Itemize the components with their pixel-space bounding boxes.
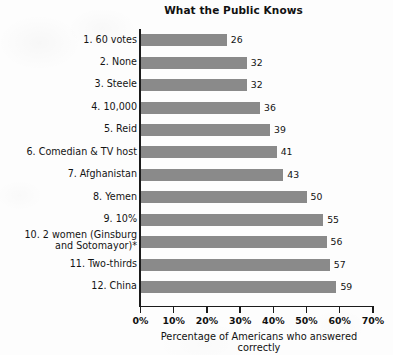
bar-value-label: 43 [287, 169, 299, 181]
bar-category-label: 11. Two-thirds [0, 258, 137, 269]
bar [141, 191, 307, 203]
bar-category-label: 10. 2 women (Ginsburg and Sotomayor)* [0, 230, 137, 251]
bar-value-label: 32 [251, 57, 263, 69]
bar [141, 146, 277, 158]
x-axis-title: Percentage of Americans who answered cor… [139, 331, 379, 353]
bar-value-label: 26 [231, 34, 243, 46]
bar-category-label: 6. Comedian & TV host [0, 146, 137, 157]
bar-row: 4. 10,00036 [0, 96, 393, 118]
bar-category-label: 12. China [0, 280, 137, 291]
bar [141, 102, 261, 114]
bar-category-label: 3. Steele [0, 78, 137, 89]
x-axis-tick [140, 306, 141, 313]
bar [141, 281, 337, 293]
bar-value-label: 39 [274, 124, 286, 136]
bar-value-label: 57 [334, 259, 346, 271]
bar [141, 214, 324, 226]
bar-value-label: 41 [281, 146, 293, 158]
x-axis-tick [339, 306, 340, 313]
bar-category-label: 7. Afghanistan [0, 168, 137, 179]
bar-category-label: 4. 10,000 [0, 101, 137, 112]
bar-row: 8. Yemen50 [0, 186, 393, 208]
bar-category-label: 2. None [0, 56, 137, 67]
bar [141, 34, 227, 46]
bar-category-label: 1. 60 votes [0, 34, 137, 45]
bar-category-label: 9. 10% [0, 213, 137, 224]
bar [141, 79, 247, 91]
x-axis-tick [372, 306, 373, 313]
bar-row: 12. China59 [0, 276, 393, 298]
bar-row: 3. Steele32 [0, 74, 393, 96]
bar [141, 169, 284, 181]
bar-value-label: 50 [311, 191, 323, 203]
bar-row: 9. 10%55 [0, 209, 393, 231]
bar-category-label: 5. Reid [0, 123, 137, 134]
bar-row: 6. Comedian & TV host41 [0, 141, 393, 163]
bar-row: 10. 2 women (Ginsburg and Sotomayor)*56 [0, 231, 393, 253]
bar-value-label: 55 [327, 214, 339, 226]
bar-row: 11. Two-thirds57 [0, 253, 393, 275]
x-axis-tick [173, 306, 174, 313]
x-axis-tick [206, 306, 207, 313]
bar-rows-container: 1. 60 votes262. None323. Steele324. 10,0… [0, 29, 393, 298]
bar [141, 259, 330, 271]
x-axis-tick [306, 306, 307, 313]
bar-value-label: 32 [251, 79, 263, 91]
bar-row: 1. 60 votes26 [0, 29, 393, 51]
bar [141, 124, 271, 136]
bar-value-label: 56 [331, 236, 343, 248]
bar-chart-plot: 1. 60 votes262. None323. Steele324. 10,0… [0, 0, 393, 355]
bar-value-label: 59 [340, 281, 352, 293]
bar-row: 2. None32 [0, 51, 393, 73]
x-axis-tick [273, 306, 274, 313]
bar-category-label: 8. Yemen [0, 191, 137, 202]
bar [141, 57, 247, 69]
x-axis-tick-label: 70% [353, 315, 393, 326]
bar-row: 7. Afghanistan43 [0, 164, 393, 186]
bar-value-label: 36 [264, 102, 276, 114]
x-axis-tick [239, 306, 240, 313]
bar-row: 5. Reid39 [0, 119, 393, 141]
bar [141, 236, 327, 248]
